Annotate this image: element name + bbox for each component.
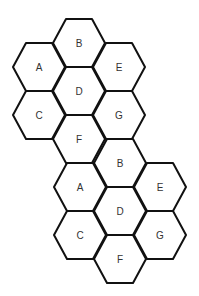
cell-label: A — [36, 62, 43, 73]
cell-label: G — [115, 110, 123, 121]
cell-label: G — [156, 230, 164, 241]
cell-label: C — [35, 110, 42, 121]
cell-label: D — [116, 206, 123, 217]
cell-label: A — [77, 182, 84, 193]
hex-cell-diagram: BAEDCGFBAEDCGF — [0, 0, 199, 296]
cell-label: E — [157, 182, 164, 193]
cell-label: B — [76, 38, 83, 49]
cell-label: B — [117, 158, 124, 169]
cell-label: C — [76, 230, 83, 241]
cell-label: E — [116, 62, 123, 73]
cell-label: F — [117, 254, 123, 265]
cell-label: D — [75, 86, 82, 97]
cell-label: F — [76, 134, 82, 145]
